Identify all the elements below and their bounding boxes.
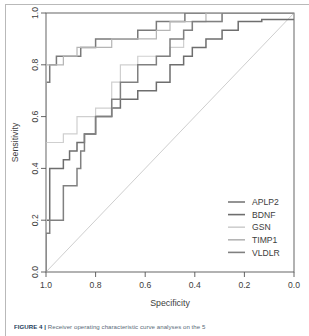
legend-label-timp1: TIMP1 (252, 235, 278, 245)
y-tick-label: 0.6 (30, 110, 40, 122)
x-tick-label: 1.0 (40, 280, 52, 290)
y-tick-label: 0.0 (30, 266, 40, 278)
legend-label-bdnf: BDNF (252, 210, 275, 220)
figure-caption: FIGURE 4 | Receiver operating characteri… (14, 323, 304, 336)
x-tick-label: 0.8 (90, 280, 102, 290)
legend-label-vldlr: VLDLR (252, 248, 280, 258)
legend-label-aplp2: APLP2 (252, 197, 279, 207)
legend: APLP2BDNFGSNTIMP1VLDLR (228, 197, 280, 257)
x-tick-label: 0.6 (139, 280, 151, 290)
x-tick-label: 0.2 (238, 280, 250, 290)
roc-figure: 1.00.80.60.40.20.00.00.20.40.60.81.0Spec… (6, 6, 309, 314)
figure-caption-text: Receiver operating characteristic curve … (46, 323, 205, 330)
legend-label-gsn: GSN (252, 222, 271, 232)
roc-chart: 1.00.80.60.40.20.00.00.20.40.60.81.0Spec… (6, 6, 309, 314)
x-axis-title: Specificity (150, 298, 190, 308)
y-tick-label: 0.4 (30, 162, 40, 174)
x-tick-label: 0.4 (189, 280, 201, 290)
x-tick-label: 0.0 (288, 280, 300, 290)
y-tick-label: 0.2 (30, 214, 40, 226)
y-tick-label: 0.8 (30, 59, 40, 71)
y-tick-label: 1.0 (30, 7, 40, 19)
y-axis-title: Sensitivity (10, 122, 20, 162)
figure-page: 1.00.80.60.40.20.00.00.20.40.60.81.0Spec… (0, 0, 309, 336)
figure-caption-label: FIGURE 4 | (14, 323, 46, 330)
page-top-rule (6, 4, 309, 5)
